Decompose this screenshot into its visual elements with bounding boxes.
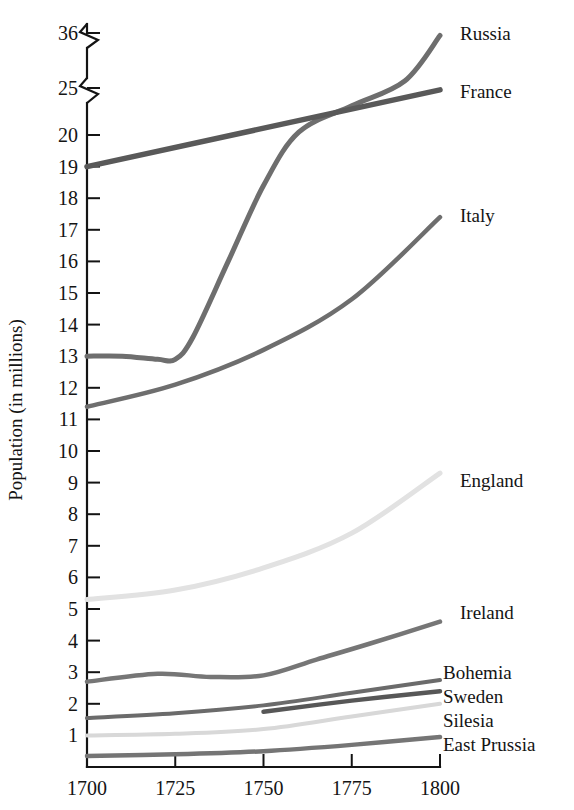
series-line-england	[87, 473, 440, 599]
axis-break-upper-icon	[80, 24, 98, 48]
series-label-italy: Italy	[460, 205, 495, 226]
x-tick-label-1725: 1725	[155, 777, 195, 799]
y-tick-label-12: 12	[58, 377, 78, 399]
y-tick-label-10: 10	[58, 440, 78, 462]
y-tick-label-14: 14	[58, 314, 78, 336]
y-tick-label-19: 19	[58, 156, 78, 178]
series-label-sweden: Sweden	[443, 686, 504, 707]
series-line-ireland	[87, 622, 440, 682]
series-label-silesia: Silesia	[443, 710, 494, 731]
series-label-bohemia: Bohemia	[443, 662, 512, 683]
x-tick-label-1750: 1750	[244, 777, 284, 799]
y-tick-label-7: 7	[68, 535, 78, 557]
series-label-east-prussia: East Prussia	[443, 734, 536, 755]
series-labels: RussiaFranceItalyEnglandIrelandBohemiaSw…	[443, 23, 536, 755]
y-tick-label-1: 1	[68, 724, 78, 746]
series-line-italy	[87, 217, 440, 407]
y-tick-label-16: 16	[58, 250, 78, 272]
y-tick-label-6: 6	[68, 566, 78, 588]
y-tick-label-17: 17	[58, 219, 78, 241]
y-tick-label-13: 13	[58, 345, 78, 367]
y-tick-label-2: 2	[68, 693, 78, 715]
y-tick-label-8: 8	[68, 503, 78, 525]
population-line-chart: 12345678910111213141516171819202536 1700…	[0, 0, 574, 810]
y-tick-label-15: 15	[58, 282, 78, 304]
y-tick-label-20: 20	[58, 124, 78, 146]
y-tick-label-36: 36	[58, 22, 78, 44]
x-axis: 17001725175017751800	[67, 754, 460, 799]
x-tick-label-1775: 1775	[332, 777, 372, 799]
x-tick-label-1700: 1700	[67, 777, 107, 799]
series-label-ireland: Ireland	[460, 602, 514, 623]
y-axis-title: Population (in millions)	[5, 319, 27, 501]
y-tick-label-5: 5	[68, 598, 78, 620]
axis-break-lower-icon	[80, 78, 98, 103]
x-tick-label-1800: 1800	[420, 777, 460, 799]
y-tick-label-25: 25	[58, 77, 78, 99]
series-line-france	[87, 90, 440, 167]
series-line-east-prussia	[87, 737, 440, 756]
y-axis: 12345678910111213141516171819202536	[58, 22, 100, 767]
series-curves	[87, 36, 440, 756]
chart-svg: 12345678910111213141516171819202536 1700…	[0, 0, 574, 810]
series-label-russia: Russia	[460, 23, 511, 44]
y-tick-label-4: 4	[68, 630, 78, 652]
y-tick-label-18: 18	[58, 187, 78, 209]
y-tick-label-11: 11	[59, 408, 78, 430]
y-tick-label-3: 3	[68, 661, 78, 683]
series-line-silesia	[87, 704, 440, 736]
y-tick-label-9: 9	[68, 472, 78, 494]
series-line-russia	[87, 36, 440, 362]
series-label-france: France	[460, 81, 512, 102]
series-label-england: England	[460, 470, 524, 491]
